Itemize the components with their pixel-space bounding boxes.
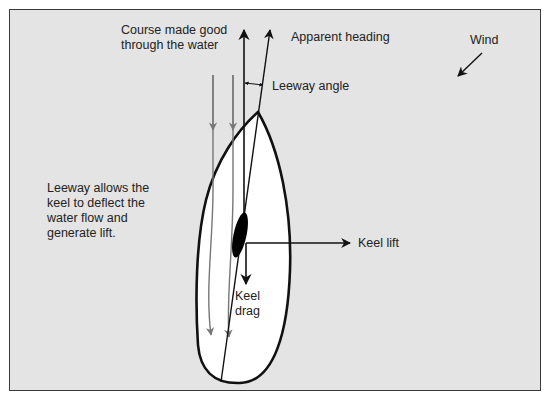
leeway-note-line-3: water flow and	[47, 211, 149, 226]
leeway-note-line-4: generate lift.	[47, 226, 149, 241]
leeway-angle-indicator	[245, 83, 263, 85]
wind-label: Wind	[470, 33, 498, 48]
keel-drag-line-2: drag	[235, 304, 260, 319]
leeway-note: Leeway allows the keel to deflect the wa…	[47, 181, 149, 241]
course-made-good-label: Course made good through the water	[121, 23, 227, 53]
leeway-note-line-2: keel to deflect the	[47, 196, 149, 211]
course-label-line-2: through the water	[121, 38, 227, 53]
keel-drag-line-1: Keel	[235, 289, 260, 304]
keel-lift-label: Keel lift	[358, 236, 399, 251]
keel-drag-label: Keel drag	[235, 289, 260, 319]
apparent-heading-label: Apparent heading	[291, 30, 390, 45]
wind-arrow	[458, 53, 482, 76]
leeway-angle-label: Leeway angle	[272, 79, 349, 94]
course-label-line-1: Course made good	[121, 23, 227, 38]
leeway-note-line-1: Leeway allows the	[47, 181, 149, 196]
